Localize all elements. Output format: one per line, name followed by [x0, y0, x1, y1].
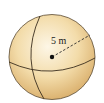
sphere	[9, 15, 95, 100]
center-point	[50, 55, 54, 59]
sphere-diagram: 5 m	[0, 0, 104, 103]
radius-label: 5 m	[51, 35, 67, 46]
